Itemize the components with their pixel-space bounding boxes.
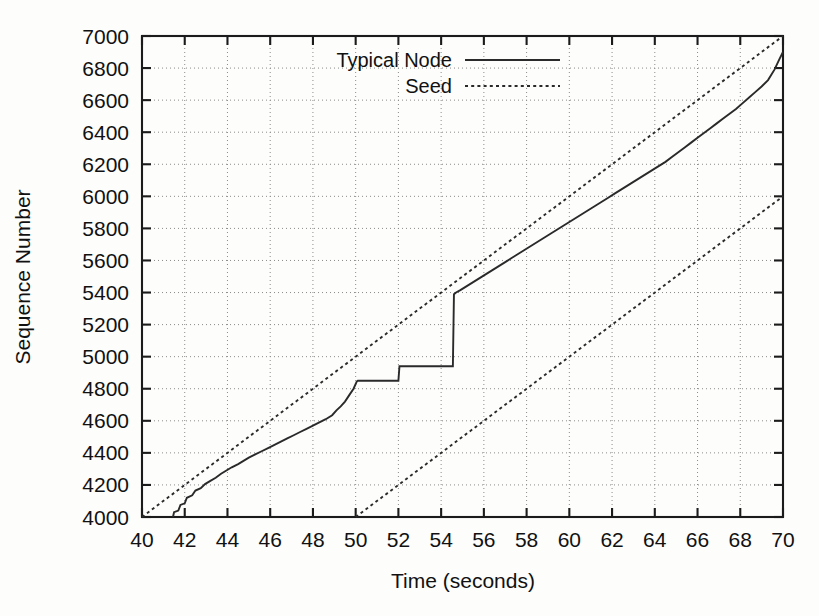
y-tick-label: 5200 (82, 313, 129, 336)
y-tick-label: 6800 (82, 57, 129, 80)
x-tick-label: 46 (259, 528, 282, 551)
sequence-number-line-chart: 40424446485052545658606264666870 4000420… (0, 0, 819, 616)
x-tick-label: 56 (472, 528, 495, 551)
x-tick-label: 60 (558, 528, 581, 551)
y-tick-label: 6000 (82, 185, 129, 208)
legend-label-typical-node: Typical Node (336, 49, 452, 71)
y-tick-label: 5000 (82, 345, 129, 368)
y-tick-label: 4000 (82, 506, 129, 529)
y-tick-label: 7000 (82, 25, 129, 48)
x-axis-title: Time (seconds) (391, 569, 535, 592)
y-tick-label: 4400 (82, 441, 129, 464)
series-line-seed (142, 36, 783, 517)
y-tick-label: 4800 (82, 377, 129, 400)
series-line-typical-node (173, 52, 783, 517)
data-series-layer (142, 36, 783, 517)
x-tick-label: 50 (344, 528, 367, 551)
x-tick-label: 48 (301, 528, 324, 551)
x-tick-label: 62 (600, 528, 623, 551)
x-tick-label: 42 (173, 528, 196, 551)
y-tick-label: 6400 (82, 121, 129, 144)
x-tick-label: 66 (686, 528, 709, 551)
x-tick-label: 54 (429, 528, 453, 551)
chart-figure: 40424446485052545658606264666870 4000420… (0, 0, 819, 616)
x-tick-label: 68 (729, 528, 752, 551)
y-tick-label: 5600 (82, 249, 129, 272)
x-tick-label: 40 (130, 528, 153, 551)
y-tick-label: 5800 (82, 217, 129, 240)
x-tick-label: 64 (643, 528, 667, 551)
x-tick-labels: 40424446485052545658606264666870 (130, 528, 794, 551)
x-tick-label: 58 (515, 528, 538, 551)
y-tick-labels: 4000420044004600480050005200540056005800… (82, 25, 129, 529)
legend-label-seed: Seed (405, 75, 452, 97)
x-tick-label: 52 (387, 528, 410, 551)
y-tick-label: 6600 (82, 89, 129, 112)
y-tick-label: 5400 (82, 281, 129, 304)
y-tick-label: 6200 (82, 153, 129, 176)
y-tick-label: 4200 (82, 473, 129, 496)
x-tick-label: 70 (771, 528, 794, 551)
y-axis-title: Sequence Number (11, 189, 34, 364)
y-tick-label: 4600 (82, 409, 129, 432)
x-tick-label: 44 (216, 528, 240, 551)
